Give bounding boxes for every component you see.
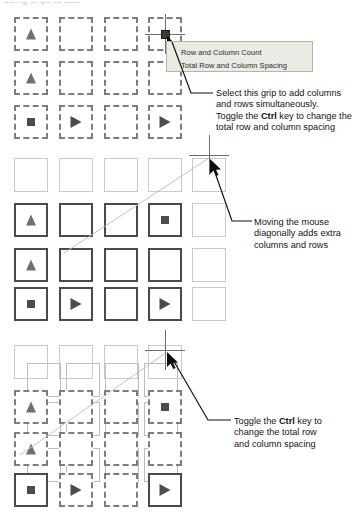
callout-emphasis: Ctrl xyxy=(261,111,277,121)
callout-line: columns and rows xyxy=(254,240,341,251)
callout-text: Toggle the xyxy=(234,416,279,426)
callout-text: change the total row xyxy=(234,427,317,437)
grid-cell[interactable] xyxy=(148,473,182,507)
callout-toggle-ctrl: Toggle the Ctrl key tochange the total r… xyxy=(234,416,322,450)
callout-line: and rows simultaneously. xyxy=(216,99,352,110)
mouse-pointer-icon xyxy=(166,352,180,370)
callout-line: and column spacing xyxy=(234,439,322,450)
callout-line: change the total row xyxy=(234,427,322,438)
callout-text: total row and column spacing xyxy=(216,122,335,132)
callout-line: Select this grip to add columns xyxy=(216,88,352,99)
tooltip-item-total-row-column-spacing[interactable]: Total Row and Column Spacing xyxy=(167,59,312,72)
triangle-right-icon xyxy=(71,484,82,496)
callout-text: diagonally adds extra xyxy=(254,228,341,238)
grid-cell[interactable] xyxy=(59,345,93,379)
triangle-right-icon xyxy=(160,484,171,496)
grid-cell[interactable] xyxy=(104,390,138,424)
callout-line: diagonally adds extra xyxy=(254,228,341,239)
grid-cell[interactable] xyxy=(104,473,138,507)
grid-cell[interactable] xyxy=(14,345,48,379)
callout-text: and column spacing xyxy=(234,439,316,449)
callout-line: Moving the mouse xyxy=(254,217,341,228)
triangle-up-icon xyxy=(26,444,36,455)
mouse-pointer-icon xyxy=(209,159,223,177)
callout-text: and rows simultaneously. xyxy=(216,99,318,109)
grip-tooltip[interactable]: Row and Column Count Total Row and Colum… xyxy=(166,41,313,72)
illustration-canvas: Using Grips to Edit Row and Column Count… xyxy=(0,0,361,516)
callout-text: Moving the mouse xyxy=(254,217,329,227)
square-icon xyxy=(27,486,35,494)
grid-cell[interactable] xyxy=(59,432,93,466)
callout-select-this-grip: Select this grip to add columnsand rows … xyxy=(216,88,352,134)
callout-text: Select this grip to add columns xyxy=(216,88,341,98)
callout-text: columns and rows xyxy=(254,240,328,250)
square-icon xyxy=(161,403,169,411)
callout-line: total row and column spacing xyxy=(216,122,352,133)
callout-text: key to change the xyxy=(277,111,352,121)
callout-text: Toggle the xyxy=(216,111,261,121)
callout-moving-the-mouse: Moving the mousediagonally adds extracol… xyxy=(254,217,341,251)
grid-cell[interactable] xyxy=(104,345,138,379)
callout-emphasis: Ctrl xyxy=(279,416,295,426)
triangle-up-icon xyxy=(26,402,36,413)
callout-text: key to xyxy=(295,416,322,426)
grid-cell[interactable] xyxy=(104,432,138,466)
grid-cell[interactable] xyxy=(59,390,93,424)
grid-cell[interactable] xyxy=(14,390,48,424)
tooltip-item-row-column-count[interactable]: Row and Column Count xyxy=(167,46,312,59)
callout-line: Toggle the Ctrl key to xyxy=(234,416,322,427)
grid-cell[interactable] xyxy=(59,473,93,507)
grid-cell[interactable] xyxy=(148,432,182,466)
grid-cell[interactable] xyxy=(14,473,48,507)
grid-cell[interactable] xyxy=(14,432,48,466)
callout-line: Toggle the Ctrl key to change the xyxy=(216,111,352,122)
grid-cell[interactable] xyxy=(148,390,182,424)
